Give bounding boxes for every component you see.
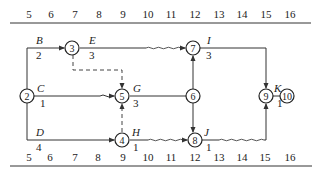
bottom-tick-15: 15 [260,151,272,163]
network-diagram: 5 6 7 8 9 10 11 12 13 14 15 16 5 6 7 8 9… [0,0,319,174]
activity-h: H 1 [130,126,187,153]
label-j: J [204,126,210,138]
top-tick-12: 12 [190,8,201,20]
top-tick-9: 9 [120,8,126,20]
top-tick-14: 14 [237,8,249,20]
top-tick-11: 11 [166,8,177,20]
node-9: 9 [259,89,273,103]
duration-j: 1 [206,141,212,153]
bottom-time-axis: 5 6 7 8 9 10 11 12 13 14 15 16 [10,151,312,166]
node-10-label: 10 [282,91,292,102]
arrow-j-float [219,139,264,141]
bottom-tick-12: 12 [190,151,201,163]
node-7-label: 7 [191,43,196,54]
node-4: 4 [115,133,129,147]
arrow-c [34,95,114,97]
bottom-tick-8: 8 [95,151,101,163]
bottom-tick-7: 7 [72,151,78,163]
label-i: I [206,34,212,46]
bottom-tick-14: 14 [237,151,249,163]
activity-i: I 3 [200,34,266,88]
arrow-b [27,48,64,89]
node-8: 8 [188,133,202,147]
node-9-label: 9 [264,91,269,102]
label-d: D [35,126,44,138]
top-tick-5: 5 [26,8,32,20]
label-e: E [88,34,96,46]
activity-e: E 3 [80,34,185,61]
bottom-tick-6: 6 [47,151,53,163]
node-5-label: 5 [120,91,125,102]
node-3: 3 [65,41,79,55]
node-3-label: 3 [70,43,75,54]
node-5: 5 [115,89,129,103]
node-8-label: 8 [193,135,198,146]
activity-j: J 1 [202,104,266,153]
bottom-tick-11: 11 [166,151,177,163]
top-tick-6: 6 [48,8,54,20]
node-2-label: 2 [25,91,30,102]
bottom-tick-10: 10 [143,151,155,163]
duration-g: 3 [133,97,139,109]
duration-i: 3 [206,49,212,61]
activity-b: B 2 [27,34,64,89]
duration-e: 3 [89,49,95,61]
activity-c: C 1 [34,82,114,109]
top-tick-15: 15 [261,8,273,20]
top-tick-10: 10 [143,8,155,20]
arrow-h-float [148,139,183,141]
dummy-arrow-3-5 [73,55,122,88]
node-10: 10 [280,89,294,103]
arrow-j-head [264,104,266,140]
top-tick-8: 8 [96,8,102,20]
activity-d: D 4 [27,103,114,153]
duration-b: 2 [36,49,42,61]
node-4-label: 4 [120,135,125,146]
label-b: B [36,34,43,46]
arrow-e-float [146,47,181,49]
label-c: C [37,82,45,94]
bottom-tick-5: 5 [26,151,32,163]
label-h: H [131,126,141,138]
top-tick-7: 7 [72,8,78,20]
duration-c: 1 [40,97,46,109]
node-6: 6 [186,89,200,103]
bottom-tick-16: 16 [285,151,297,163]
activity-g: G 3 [130,82,186,109]
node-6-label: 6 [191,91,196,102]
duration-h: 1 [133,141,139,153]
node-2: 2 [20,89,34,103]
top-tick-13: 13 [214,8,226,20]
top-tick-16: 16 [285,8,297,20]
node-7: 7 [186,41,200,55]
label-g: G [133,82,141,94]
bottom-tick-9: 9 [120,151,126,163]
bottom-tick-13: 13 [214,151,226,163]
duration-d: 4 [36,141,42,153]
top-time-axis: 5 6 7 8 9 10 11 12 13 14 15 16 [10,8,311,23]
